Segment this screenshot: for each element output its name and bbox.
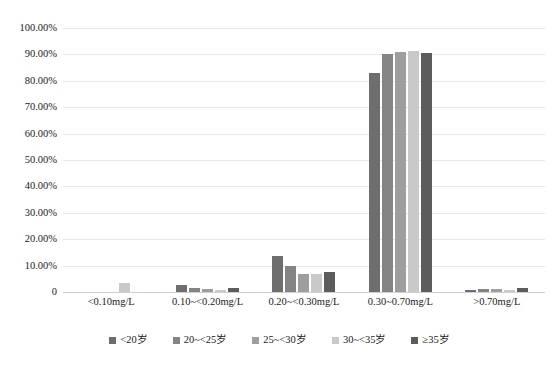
legend-item[interactable]: 25~<30岁	[252, 334, 306, 346]
bar-chart: 100.00%90.00%80.00%70.00%60.00%50.00%40.…	[0, 0, 558, 366]
bar[interactable]	[324, 272, 335, 292]
legend-item[interactable]: ≥35岁	[411, 334, 448, 346]
bar[interactable]	[202, 289, 213, 292]
legend-label: ≥35岁	[422, 334, 448, 346]
bar-group-bars	[352, 28, 448, 292]
legend-label: 30~<35岁	[343, 334, 386, 346]
x-axis-tick-label: 0.20~<0.30mg/L	[256, 296, 352, 308]
x-axis-tick-label: 0.10~<0.20mg/L	[159, 296, 255, 308]
bar[interactable]	[228, 288, 239, 292]
y-axis-tick-label: 60.00%	[0, 129, 57, 140]
y-axis-tick-label: 50.00%	[0, 155, 57, 166]
bar[interactable]	[215, 290, 226, 292]
bar[interactable]	[504, 290, 515, 292]
y-axis-tick-label: 90.00%	[0, 49, 57, 60]
bar[interactable]	[369, 73, 380, 292]
gridline	[63, 292, 545, 293]
x-axis-tick-label: >0.70mg/L	[449, 296, 545, 308]
plot-area	[63, 28, 545, 292]
legend-item[interactable]: 30~<35岁	[332, 334, 386, 346]
bar-group	[159, 28, 255, 292]
bar[interactable]	[272, 256, 283, 292]
x-axis-tick-label: 0.30~0.70mg/L	[352, 296, 448, 308]
bar-group-bars	[63, 28, 159, 292]
legend-label: <20岁	[120, 334, 146, 346]
bar[interactable]	[382, 54, 393, 292]
legend-item[interactable]: <20岁	[109, 334, 146, 346]
y-axis-tick-label: 100.00%	[0, 23, 57, 34]
y-axis-tick-label: 80.00%	[0, 76, 57, 87]
bar-group	[256, 28, 352, 292]
bar[interactable]	[119, 283, 130, 292]
bar[interactable]	[517, 288, 528, 292]
bar[interactable]	[298, 274, 309, 292]
chart-legend: <20岁20~<25岁25~<30岁30~<35岁≥35岁	[0, 334, 558, 346]
legend-swatch-icon	[109, 337, 116, 344]
legend-item[interactable]: 20~<25岁	[173, 334, 227, 346]
legend-swatch-icon	[411, 337, 418, 344]
bar[interactable]	[285, 266, 296, 292]
legend-swatch-icon	[173, 337, 180, 344]
x-axis-tick-label: <0.10mg/L	[63, 296, 159, 308]
bar-group-bars	[256, 28, 352, 292]
bar-group-bars	[449, 28, 545, 292]
bar-group	[63, 28, 159, 292]
legend-swatch-icon	[332, 337, 339, 344]
legend-swatch-icon	[252, 337, 259, 344]
bar[interactable]	[491, 289, 502, 292]
bar[interactable]	[421, 53, 432, 292]
y-axis-tick-label: 10.00%	[0, 261, 57, 272]
bar[interactable]	[176, 285, 187, 292]
bar-group-bars	[159, 28, 255, 292]
bar[interactable]	[478, 289, 489, 292]
bar-group	[352, 28, 448, 292]
legend-label: 25~<30岁	[263, 334, 306, 346]
bar[interactable]	[465, 290, 476, 292]
y-axis-tick-label: 40.00%	[0, 181, 57, 192]
y-axis-tick-label: 20.00%	[0, 234, 57, 245]
bar[interactable]	[189, 288, 200, 292]
legend-label: 20~<25岁	[184, 334, 227, 346]
y-axis-tick-label: 70.00%	[0, 102, 57, 113]
bar[interactable]	[395, 52, 406, 292]
bar[interactable]	[408, 51, 419, 292]
bar-group	[449, 28, 545, 292]
y-axis-tick-label: 30.00%	[0, 208, 57, 219]
y-axis-tick-label: 0	[0, 287, 57, 298]
bar[interactable]	[311, 274, 322, 292]
